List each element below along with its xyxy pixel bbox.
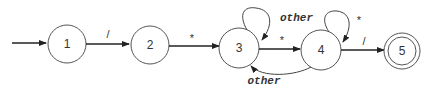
- fsa-diagram: 1 / 2 * 3 other * 4 * other / 5: [0, 0, 429, 85]
- state-1-label: 1: [64, 37, 71, 51]
- edge-4-3-label: other: [247, 75, 280, 85]
- edge-2-3-label: *: [190, 32, 195, 44]
- edge-4-5-label: /: [362, 35, 366, 47]
- edge-1-2-label: /: [106, 28, 110, 40]
- state-5-label: 5: [399, 44, 406, 58]
- edge-4-3: [251, 66, 311, 74]
- edge-3-4-label: *: [280, 34, 285, 46]
- state-3: 3: [219, 28, 259, 68]
- state-4-label: 4: [318, 43, 325, 57]
- loop-3-label: other: [280, 12, 313, 24]
- state-3-label: 3: [236, 41, 243, 55]
- loop-4-label: *: [357, 14, 362, 26]
- state-2: 2: [131, 26, 169, 64]
- state-5-accepting: 5: [384, 33, 420, 69]
- state-2-label: 2: [147, 38, 154, 52]
- state-1: 1: [48, 25, 86, 63]
- state-4: 4: [301, 30, 341, 70]
